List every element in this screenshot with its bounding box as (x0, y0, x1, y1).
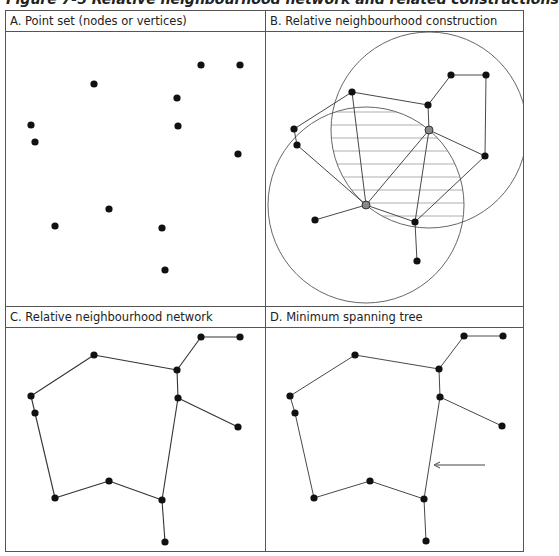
node-point (234, 423, 241, 430)
node-point (311, 216, 318, 223)
node-point (236, 61, 243, 68)
network-edge (178, 398, 238, 427)
network-edge (429, 130, 485, 156)
node-point (435, 365, 442, 372)
network-edge (315, 205, 366, 220)
network-edge (294, 92, 352, 129)
network-edge (162, 500, 165, 542)
node-point (27, 121, 34, 128)
network-edge (415, 222, 417, 261)
node-point (31, 409, 38, 416)
node-point (105, 477, 112, 484)
panel-b-construction (268, 32, 527, 303)
node-point (436, 393, 443, 400)
node-point (158, 496, 165, 503)
node-point (286, 392, 293, 399)
network-edge (177, 337, 201, 370)
node-point (424, 101, 431, 108)
node-point (197, 61, 204, 68)
network-edge (352, 92, 366, 205)
node-point (425, 126, 433, 134)
node-point (290, 125, 297, 132)
node-point (173, 366, 180, 373)
network-edge (94, 355, 177, 370)
node-point (161, 266, 168, 273)
network-edge (415, 156, 485, 222)
network-edge (366, 205, 415, 222)
network-edge (162, 398, 178, 500)
network-edge (370, 481, 424, 499)
node-point (413, 257, 420, 264)
node-point (161, 538, 168, 545)
node-point (481, 152, 488, 159)
network-edge (485, 75, 486, 156)
node-point (158, 224, 165, 231)
node-point (499, 332, 506, 339)
node-point (310, 494, 317, 501)
node-point (411, 218, 418, 225)
node-point (362, 201, 370, 209)
node-point (27, 392, 34, 399)
node-point (348, 88, 355, 95)
node-point (291, 409, 298, 416)
network-edge (440, 397, 502, 426)
node-point (447, 71, 454, 78)
node-point (51, 494, 58, 501)
panel-d-mst (286, 332, 506, 544)
node-point (293, 141, 300, 148)
node-point (105, 205, 112, 212)
network-edge (314, 481, 370, 498)
network-edge (424, 499, 426, 541)
network-edge (439, 336, 464, 369)
node-point (51, 222, 58, 229)
node-point (422, 537, 429, 544)
node-point (173, 94, 180, 101)
node-point (482, 71, 489, 78)
node-point (234, 150, 241, 157)
network-edge (55, 481, 109, 498)
network-edge (428, 75, 451, 105)
node-point (420, 495, 427, 502)
node-point (174, 122, 181, 129)
network-edge (35, 413, 55, 498)
node-point (31, 138, 38, 145)
network-edge (177, 370, 178, 398)
node-point (174, 394, 181, 401)
node-point (197, 333, 204, 340)
network-edge (355, 355, 439, 369)
lune-hatching (300, 112, 470, 216)
arrow-icon (434, 462, 485, 468)
node-point (90, 80, 97, 87)
network-edge (31, 355, 94, 396)
network-edge (297, 145, 366, 205)
network-edge (295, 413, 314, 498)
node-point (498, 422, 505, 429)
network-edge (109, 481, 162, 500)
network-edge (424, 397, 440, 499)
node-point (236, 333, 243, 340)
node-point (90, 351, 97, 358)
panel-c-network (27, 333, 243, 545)
network-edge (290, 355, 355, 396)
node-point (460, 332, 467, 339)
node-point (351, 351, 358, 358)
node-point (366, 477, 373, 484)
network-edge (439, 369, 440, 397)
network-edge (352, 92, 428, 105)
panel-a-points (27, 61, 243, 273)
